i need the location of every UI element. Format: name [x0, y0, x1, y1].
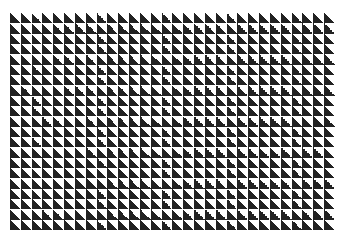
- triangle-cell: [302, 178, 313, 188]
- triangle-cell: [248, 65, 259, 75]
- triangle-cell: [172, 54, 183, 64]
- triangle-cell: [302, 199, 313, 209]
- triangle-cell: [97, 168, 108, 178]
- triangle-cell: [140, 13, 151, 23]
- triangle-cell: [237, 85, 248, 95]
- triangle-cell: [118, 209, 129, 219]
- triangle-cell: [162, 147, 173, 157]
- triangle-cell: [281, 54, 292, 64]
- triangle-cell: [237, 116, 248, 126]
- triangle-cell: [86, 34, 97, 44]
- triangle-cell: [129, 96, 140, 106]
- triangle-cell: [313, 189, 324, 199]
- triangle-cell: [86, 75, 97, 85]
- triangle-cell: [162, 23, 173, 33]
- triangle-cell: [281, 220, 292, 230]
- triangle-cell: [194, 209, 205, 219]
- triangle-cell: [64, 199, 75, 209]
- triangle-cell: [86, 96, 97, 106]
- triangle-cell: [172, 147, 183, 157]
- triangle-cell: [42, 178, 53, 188]
- triangle-cell: [270, 34, 281, 44]
- triangle-cell: [313, 199, 324, 209]
- triangle-cell: [270, 23, 281, 33]
- triangle-cell: [86, 158, 97, 168]
- triangle-pattern-grid: [10, 13, 335, 230]
- triangle-cell: [227, 116, 238, 126]
- triangle-cell: [313, 158, 324, 168]
- triangle-cell: [21, 168, 32, 178]
- triangle-cell: [302, 189, 313, 199]
- triangle-cell: [32, 75, 43, 85]
- triangle-cell: [10, 199, 21, 209]
- triangle-cell: [162, 116, 173, 126]
- triangle-cell: [10, 54, 21, 64]
- triangle-cell: [292, 127, 303, 137]
- triangle-cell: [75, 116, 86, 126]
- triangle-cell: [281, 75, 292, 85]
- triangle-cell: [281, 85, 292, 95]
- triangle-cell: [140, 75, 151, 85]
- triangle-cell: [237, 127, 248, 137]
- triangle-cell: [97, 65, 108, 75]
- triangle-cell: [194, 65, 205, 75]
- triangle-cell: [64, 189, 75, 199]
- triangle-cell: [75, 65, 86, 75]
- triangle-cell: [162, 209, 173, 219]
- triangle-cell: [151, 23, 162, 33]
- triangle-cell: [64, 44, 75, 54]
- triangle-cell: [172, 106, 183, 116]
- triangle-cell: [151, 116, 162, 126]
- triangle-cell: [42, 147, 53, 157]
- triangle-cell: [313, 44, 324, 54]
- triangle-cell: [32, 106, 43, 116]
- triangle-cell: [216, 168, 227, 178]
- triangle-cell: [292, 13, 303, 23]
- triangle-cell: [292, 96, 303, 106]
- triangle-cell: [227, 199, 238, 209]
- triangle-cell: [270, 220, 281, 230]
- triangle-cell: [118, 23, 129, 33]
- triangle-cell: [216, 209, 227, 219]
- triangle-cell: [259, 75, 270, 85]
- triangle-cell: [97, 106, 108, 116]
- triangle-cell: [183, 137, 194, 147]
- triangle-cell: [107, 178, 118, 188]
- triangle-cell: [324, 116, 335, 126]
- triangle-cell: [162, 137, 173, 147]
- triangle-cell: [129, 209, 140, 219]
- triangle-cell: [313, 178, 324, 188]
- triangle-cell: [21, 147, 32, 157]
- triangle-cell: [97, 96, 108, 106]
- triangle-cell: [248, 127, 259, 137]
- triangle-cell: [216, 199, 227, 209]
- triangle-cell: [140, 23, 151, 33]
- triangle-cell: [259, 127, 270, 137]
- triangle-cell: [97, 85, 108, 95]
- triangle-cell: [107, 85, 118, 95]
- triangle-cell: [10, 85, 21, 95]
- triangle-cell: [53, 127, 64, 137]
- triangle-cell: [227, 44, 238, 54]
- triangle-cell: [53, 13, 64, 23]
- triangle-cell: [32, 178, 43, 188]
- triangle-cell: [172, 127, 183, 137]
- triangle-cell: [194, 106, 205, 116]
- triangle-cell: [302, 168, 313, 178]
- triangle-cell: [107, 158, 118, 168]
- triangle-cell: [10, 116, 21, 126]
- triangle-cell: [162, 168, 173, 178]
- triangle-cell: [86, 178, 97, 188]
- triangle-cell: [183, 85, 194, 95]
- triangle-cell: [32, 189, 43, 199]
- triangle-cell: [227, 13, 238, 23]
- triangle-cell: [86, 209, 97, 219]
- triangle-cell: [129, 220, 140, 230]
- triangle-cell: [10, 158, 21, 168]
- triangle-cell: [42, 199, 53, 209]
- triangle-cell: [183, 75, 194, 85]
- triangle-cell: [183, 158, 194, 168]
- triangle-cell: [292, 65, 303, 75]
- triangle-cell: [183, 209, 194, 219]
- triangle-cell: [162, 158, 173, 168]
